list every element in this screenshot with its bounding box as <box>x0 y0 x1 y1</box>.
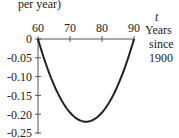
x-axis-label-line2: since <box>149 38 174 50</box>
y-tick-label: -0.10 <box>2 71 32 83</box>
x-axis-label-line1: Years <box>145 24 172 36</box>
y-tick-label: -0.25 <box>2 127 32 138</box>
x-tick-label: 90 <box>124 22 144 34</box>
y-tick-label: 0 <box>2 33 32 45</box>
y-tick-label: -0.05 <box>2 52 32 64</box>
x-axis-label-line3: 1900 <box>149 52 173 64</box>
y-tick-label: -0.20 <box>2 109 32 121</box>
y-axis-label-fragment: per year) <box>18 0 61 10</box>
data-curve <box>38 39 134 122</box>
x-tick-label: 80 <box>92 22 112 34</box>
x-tick-label: 70 <box>60 22 80 34</box>
x-axis-variable: t <box>155 11 158 23</box>
y-tick-label: -0.15 <box>2 90 32 102</box>
